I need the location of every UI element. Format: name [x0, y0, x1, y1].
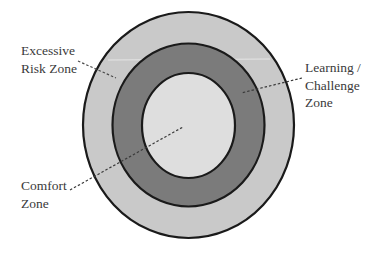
label-line: Zone	[305, 94, 361, 112]
comfort-zone-circle	[142, 73, 235, 178]
label-line: Challenge	[305, 77, 361, 95]
excessive-risk-zone-label: Excessive Risk Zone	[21, 42, 77, 77]
comfort-zone-label: Comfort Zone	[21, 177, 67, 212]
label-line: Zone	[21, 195, 67, 213]
label-line: Learning /	[305, 59, 361, 77]
concentric-circles-graphic	[0, 0, 378, 255]
comfort-zone-diagram: Excessive Risk Zone Learning / Challenge…	[0, 0, 378, 255]
label-line: Risk Zone	[21, 60, 77, 78]
label-line: Comfort	[21, 177, 67, 195]
learning-challenge-zone-label: Learning / Challenge Zone	[305, 59, 361, 112]
label-line: Excessive	[21, 42, 77, 60]
